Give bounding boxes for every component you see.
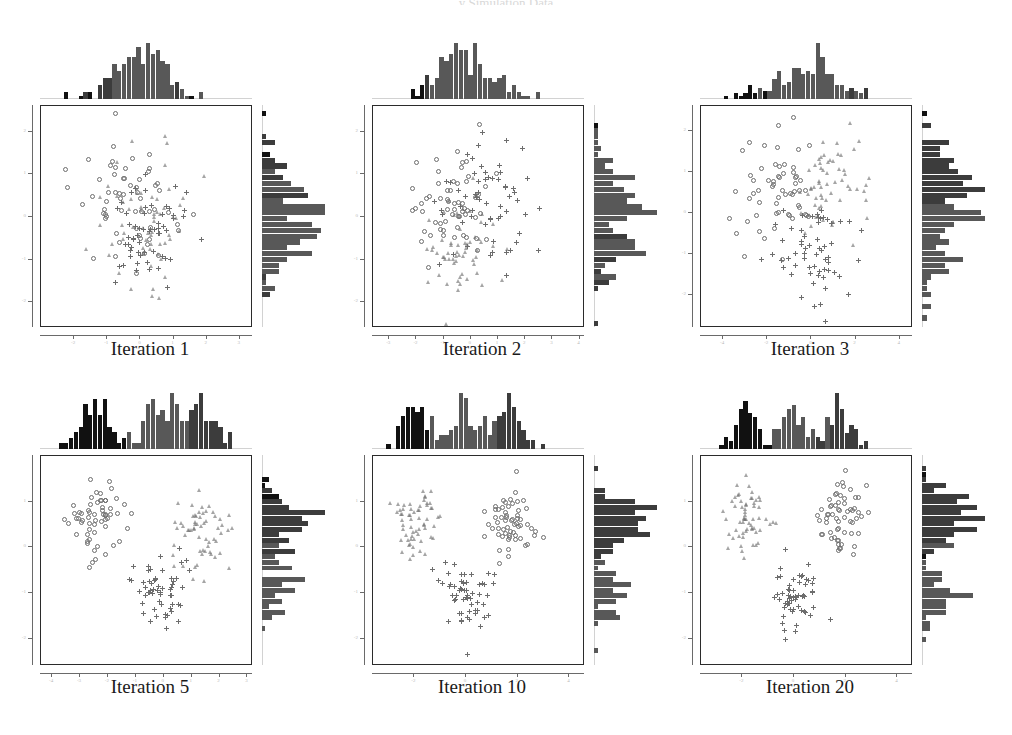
data-point-circle bbox=[859, 514, 864, 519]
data-point-triangle bbox=[754, 498, 758, 502]
data-point-circle bbox=[842, 501, 847, 506]
top-histogram-bar-iteration-20-30 bbox=[845, 433, 849, 449]
right-histogram-bar-iteration-20-8 bbox=[922, 615, 926, 620]
data-point-triangle bbox=[740, 549, 744, 553]
data-point-circle bbox=[848, 487, 853, 492]
top-histogram-bar-iteration-20-15 bbox=[772, 429, 776, 449]
data-point-plus bbox=[803, 582, 808, 587]
right-histogram-bar-iteration-20-9 bbox=[922, 610, 946, 615]
right-histogram-bar-iteration-20-28 bbox=[922, 505, 977, 510]
data-point-triangle bbox=[734, 528, 738, 532]
data-point-plus bbox=[797, 580, 802, 585]
right-histogram-bar-iteration-20-4 bbox=[922, 637, 926, 642]
y-tick-label-iteration-20-3: 1 bbox=[676, 498, 686, 504]
data-point-circle bbox=[849, 531, 854, 536]
right-histogram-bar-iteration-20-32 bbox=[922, 483, 946, 488]
y-tick-label-iteration-20-0: -2 bbox=[676, 635, 686, 641]
data-point-plus bbox=[802, 609, 807, 614]
right-histogram-bar-iteration-20-7 bbox=[922, 621, 930, 626]
data-point-circle bbox=[819, 507, 824, 512]
data-point-triangle bbox=[733, 495, 737, 499]
data-point-circle bbox=[829, 536, 834, 541]
right-histogram-bar-iteration-20-34 bbox=[922, 472, 926, 477]
right-histogram-bar-iteration-20-20 bbox=[922, 549, 934, 554]
data-point-triangle bbox=[745, 527, 749, 531]
data-point-triangle bbox=[757, 516, 761, 520]
data-point-plus bbox=[787, 588, 792, 593]
top-histogram-bar-iteration-20-20 bbox=[796, 425, 800, 449]
right-histogram-bar-iteration-20-29 bbox=[922, 499, 957, 504]
data-point-circle bbox=[833, 492, 838, 497]
data-point-circle bbox=[853, 495, 858, 500]
top-histogram-bar-iteration-20-16 bbox=[777, 429, 781, 449]
right-histogram-bar-iteration-20-6 bbox=[922, 626, 930, 631]
top-histogram-bar-iteration-20-18 bbox=[787, 409, 791, 449]
top-histogram-bar-iteration-20-8 bbox=[739, 409, 743, 449]
right-histogram-bar-iteration-20-15 bbox=[922, 577, 942, 582]
right-histogram-iteration-20 bbox=[922, 455, 988, 665]
data-point-plus bbox=[810, 581, 815, 586]
top-histogram-bar-iteration-20-29 bbox=[840, 409, 844, 449]
top-histogram-bar-iteration-20-23 bbox=[811, 429, 815, 449]
data-point-plus bbox=[775, 575, 780, 580]
data-point-plus bbox=[780, 621, 785, 626]
top-histogram-bar-iteration-20-12 bbox=[758, 429, 762, 449]
top-histogram-bar-iteration-20-9 bbox=[743, 401, 747, 449]
top-histogram-bar-iteration-20-24 bbox=[816, 437, 820, 449]
data-point-circle bbox=[850, 508, 855, 513]
panel-caption-iteration-20: Iteration 20 bbox=[660, 676, 960, 698]
right-histogram-bar-iteration-20-11 bbox=[922, 599, 946, 604]
y-tick-iteration-20-0 bbox=[688, 638, 692, 639]
data-point-circle bbox=[815, 513, 820, 518]
top-histogram-bar-iteration-20-4 bbox=[719, 445, 723, 449]
top-histogram-iteration-20 bbox=[700, 389, 912, 449]
top-histogram-bar-iteration-20-11 bbox=[753, 417, 757, 449]
right-histogram-bar-iteration-20-21 bbox=[922, 543, 954, 548]
data-point-circle bbox=[836, 519, 841, 524]
data-point-triangle bbox=[758, 528, 762, 532]
data-point-triangle bbox=[724, 517, 728, 521]
data-point-triangle bbox=[726, 546, 730, 550]
data-point-plus bbox=[780, 591, 785, 596]
data-point-circle bbox=[856, 531, 861, 536]
data-point-circle bbox=[819, 532, 824, 537]
data-point-plus bbox=[778, 566, 783, 571]
data-point-plus bbox=[786, 593, 791, 598]
right-histogram-bar-iteration-20-16 bbox=[922, 571, 942, 576]
right-histogram-bar-iteration-20-30 bbox=[922, 494, 969, 499]
data-point-circle bbox=[828, 530, 833, 535]
data-point-circle bbox=[836, 500, 841, 505]
data-point-plus bbox=[811, 605, 816, 610]
data-point-triangle bbox=[744, 473, 748, 477]
data-point-circle bbox=[842, 530, 847, 535]
data-point-plus bbox=[785, 602, 790, 607]
right-histogram-bar-iteration-20-14 bbox=[922, 582, 934, 587]
data-point-circle bbox=[842, 496, 847, 501]
top-histogram-bar-iteration-20-13 bbox=[763, 445, 767, 449]
data-point-triangle bbox=[731, 536, 735, 540]
y-tick-iteration-20-2 bbox=[688, 546, 692, 547]
data-point-plus bbox=[791, 577, 796, 582]
data-point-circle bbox=[842, 515, 847, 520]
right-histogram-bar-iteration-20-19 bbox=[922, 554, 926, 559]
data-point-triangle bbox=[741, 535, 745, 539]
data-point-triangle bbox=[730, 499, 734, 503]
right-histogram-bar-iteration-20-12 bbox=[922, 593, 973, 598]
data-point-triangle bbox=[739, 544, 743, 548]
data-point-triangle bbox=[751, 517, 755, 521]
panel-iteration-20: -2024-2-101Iteration 20 bbox=[0, 0, 1012, 735]
top-histogram-bar-iteration-20-21 bbox=[801, 417, 805, 449]
data-point-triangle bbox=[742, 556, 746, 560]
data-point-circle bbox=[864, 483, 869, 488]
y-tick-label-iteration-20-2: 0 bbox=[676, 543, 686, 549]
data-point-plus bbox=[794, 623, 799, 628]
top-histogram-bar-iteration-20-28 bbox=[835, 393, 839, 449]
data-point-plus bbox=[781, 614, 786, 619]
data-point-circle bbox=[828, 504, 833, 509]
right-histogram-bar-iteration-20-13 bbox=[922, 588, 950, 593]
data-point-plus bbox=[782, 628, 787, 633]
data-point-triangle bbox=[739, 499, 743, 503]
top-histogram-bar-iteration-20-31 bbox=[849, 425, 853, 449]
top-histogram-bar-iteration-20-33 bbox=[859, 445, 863, 449]
y-axis-iteration-20 bbox=[692, 455, 693, 665]
